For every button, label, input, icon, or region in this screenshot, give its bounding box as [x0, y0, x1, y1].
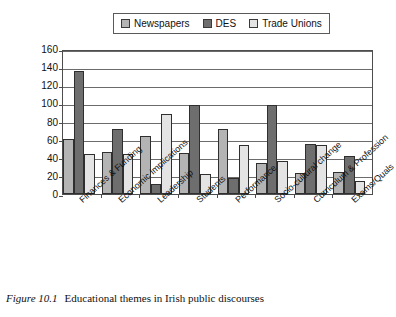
bar	[63, 139, 74, 194]
legend-label: Trade Unions	[262, 19, 322, 29]
legend-swatch-icon	[249, 19, 258, 28]
y-tick-mark	[59, 177, 63, 178]
chart-legend: NewspapersDESTrade Unions	[113, 13, 330, 34]
y-tick-label: 100	[14, 99, 58, 109]
y-tick-label: 20	[14, 172, 58, 182]
y-tick-label: 80	[14, 118, 58, 128]
y-tick-mark	[59, 87, 63, 88]
legend-entry: Newspapers	[121, 19, 190, 29]
y-tick-mark	[59, 105, 63, 106]
legend-label: DES	[216, 19, 237, 29]
y-tick-mark	[59, 141, 63, 142]
bar-group	[63, 51, 102, 194]
bar	[189, 105, 200, 194]
figure-caption: Figure 10.1Educational themes in Irish p…	[6, 292, 264, 304]
legend-entry: DES	[203, 19, 237, 29]
figure-number: Figure 10.1	[6, 292, 58, 304]
legend-swatch-icon	[121, 19, 130, 28]
figure-caption-text: Educational themes in Irish public disco…	[65, 292, 264, 304]
y-tick-mark	[59, 69, 63, 70]
y-tick-label: 40	[14, 154, 58, 164]
legend-swatch-icon	[203, 19, 212, 28]
y-tick-label: 160	[14, 45, 58, 55]
bar	[267, 105, 278, 194]
y-axis: 020406080100120140160	[10, 50, 58, 195]
x-axis-labels: Finances & FundingEconomic ImplicationsL…	[0, 196, 391, 276]
bar-group	[218, 51, 257, 194]
y-tick-label: 120	[14, 81, 58, 91]
legend-entry: Trade Unions	[249, 19, 322, 29]
y-tick-label: 60	[14, 136, 58, 146]
y-tick-label: 140	[14, 63, 58, 73]
legend-label: Newspapers	[134, 19, 190, 29]
y-tick-mark	[59, 159, 63, 160]
bar	[74, 71, 85, 194]
bar	[228, 178, 239, 194]
y-tick-mark	[59, 51, 63, 52]
y-tick-mark	[59, 123, 63, 124]
